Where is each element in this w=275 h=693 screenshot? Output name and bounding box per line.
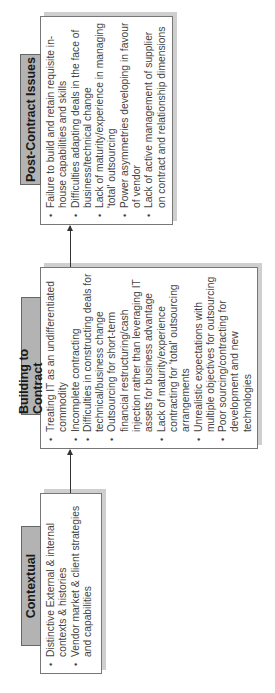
- post-contract-label: Post-Contract Issues: [20, 54, 41, 185]
- building-list: Treating IT as an undifferentiated commo…: [45, 272, 254, 442]
- list-item: Unrealistic expectations with multiple o…: [193, 272, 218, 432]
- post-contract-list: Failure to build and retain requisite in…: [45, 21, 168, 218]
- building-label: Building to Contract: [21, 297, 41, 415]
- contextual-label: Contextual: [21, 526, 41, 646]
- list-item: Vendor market & client strategies and ca…: [70, 498, 95, 657]
- list-item: Lack of maturity/experience contracting …: [156, 272, 193, 432]
- list-item: Power asymmetries developing in favour o…: [119, 21, 144, 208]
- building-box: Treating IT as an undifferentiated commo…: [40, 267, 258, 449]
- outsourcing-stages-diagram: Distinctive External & internal contexts…: [0, 0, 275, 693]
- list-item: Incomplete contracting: [70, 272, 82, 432]
- contextual-list: Distinctive External & internal contexts…: [45, 498, 94, 667]
- contextual-box: Distinctive External & internal contexts…: [40, 493, 102, 674]
- list-item: Failure to build and retain requisite in…: [45, 21, 70, 208]
- arrow-right-icon: [70, 226, 71, 267]
- list-item: Lack of active management of supplier on…: [143, 21, 168, 208]
- list-item: Difficulties in constructing deals for t…: [82, 272, 107, 432]
- list-item: Lack of maturity/experience in managing …: [94, 21, 119, 208]
- list-item: Distinctive External & internal contexts…: [45, 498, 70, 657]
- post-contract-box: Failure to build and retain requisite in…: [40, 16, 173, 225]
- list-item: Treating IT as an undifferentiated commo…: [45, 272, 70, 432]
- list-item: Difficulties adapting deals in the face …: [70, 21, 95, 208]
- list-item: Outsourcing for short-term financial res…: [106, 272, 155, 432]
- arrow-right-icon: [70, 450, 71, 493]
- list-item: Poor sourcing/contracting for developmen…: [217, 272, 254, 432]
